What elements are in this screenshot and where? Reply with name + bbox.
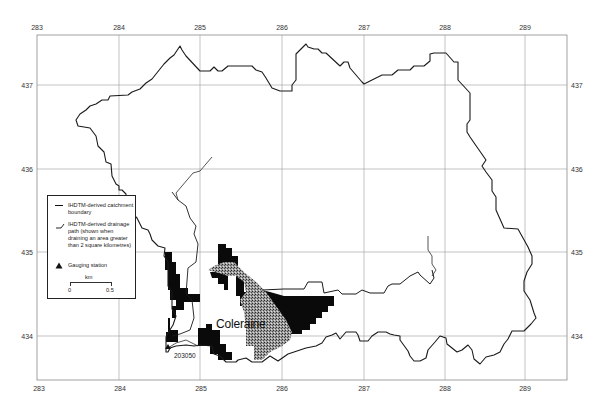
triangle-icon: [55, 262, 63, 271]
scale-end: 0.5: [106, 287, 114, 293]
boundary-line-icon: [55, 205, 63, 206]
x-axis-top-labels: 283 284 285 286 287 288 289: [31, 24, 531, 31]
station-label-203050: 203050: [174, 352, 196, 359]
svg-text:289: 289: [519, 385, 531, 392]
svg-text:283: 283: [33, 385, 45, 392]
svg-text:437: 437: [21, 82, 33, 89]
drainage-path-icon: [55, 222, 65, 232]
x-axis-bottom-labels: 283 284 285 286 287 288 289: [33, 385, 531, 392]
svg-text:287: 287: [358, 24, 370, 31]
scale-line: [70, 282, 112, 286]
svg-text:434: 434: [571, 333, 583, 340]
map-legend: IHDTM-derived catchment boundary IHDTM-d…: [47, 195, 136, 299]
svg-text:285: 285: [195, 385, 207, 392]
legend-label: IHDTM-derived catchment boundary: [68, 202, 134, 216]
svg-text:436: 436: [571, 166, 583, 173]
svg-text:284: 284: [113, 24, 125, 31]
svg-text:286: 286: [276, 385, 288, 392]
svg-text:289: 289: [519, 24, 531, 31]
svg-text:284: 284: [114, 385, 126, 392]
svg-text:436: 436: [21, 166, 33, 173]
svg-text:283: 283: [31, 24, 43, 31]
svg-text:435: 435: [21, 249, 33, 256]
y-axis-right-labels: 437 436 435 434: [571, 82, 583, 340]
svg-text:434: 434: [21, 333, 33, 340]
svg-text:437: 437: [571, 82, 583, 89]
svg-text:287: 287: [358, 385, 370, 392]
legend-label: Gauging station: [68, 262, 134, 269]
inner-boundary-east: [262, 270, 434, 294]
svg-text:435: 435: [571, 249, 583, 256]
svg-text:285: 285: [194, 24, 206, 31]
legend-label: IHDTM-derived drainage path (shown when …: [68, 221, 134, 249]
svg-text:288: 288: [439, 385, 451, 392]
svg-text:288: 288: [439, 24, 451, 31]
y-axis-left-labels: 437 436 435 434: [21, 82, 33, 340]
scale-unit: km: [85, 274, 92, 280]
scale-start: 0: [68, 287, 71, 293]
scale-bar: km 0 0.5: [68, 276, 128, 296]
svg-text:286: 286: [276, 24, 288, 31]
town-label-coleraine: Coleraine: [216, 317, 266, 331]
